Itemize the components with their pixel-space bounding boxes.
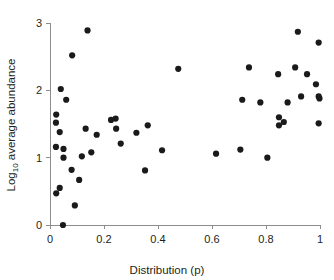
data-point: [145, 122, 151, 128]
y-axis-title-rest: average abundance: [5, 59, 17, 164]
data-point: [142, 167, 148, 173]
x-axis-ticks: [50, 225, 320, 229]
y-tick-label: 1: [36, 152, 42, 164]
data-point: [57, 129, 63, 135]
data-point: [295, 29, 301, 35]
x-tick-label: 0.2: [96, 233, 111, 245]
data-point: [58, 86, 64, 92]
data-point: [213, 151, 219, 157]
data-point: [84, 27, 90, 33]
x-tick-label: 0.4: [150, 233, 165, 245]
data-point: [60, 146, 66, 152]
data-point: [264, 155, 270, 161]
data-point: [53, 111, 59, 117]
data-point: [53, 190, 59, 196]
data-point: [246, 64, 252, 70]
data-point: [175, 66, 181, 72]
data-point: [298, 93, 304, 99]
y-tick-label: 2: [36, 84, 42, 96]
data-point: [239, 97, 245, 103]
data-point: [76, 177, 82, 183]
data-point: [275, 71, 281, 77]
data-point: [88, 149, 94, 155]
data-point: [79, 153, 85, 159]
data-point: [281, 119, 287, 125]
data-point: [313, 81, 319, 87]
data-point: [60, 155, 66, 161]
x-tick-label: 0.6: [204, 233, 219, 245]
scatter-plot-figure: 0123 00.20.40.60.81 Distribution (p) Log…: [0, 0, 334, 280]
x-tick-label: 0.8: [258, 233, 273, 245]
data-point: [72, 202, 78, 208]
data-point: [69, 167, 75, 173]
x-axis-tick-labels: 00.20.40.60.81: [47, 233, 323, 245]
data-point: [133, 130, 139, 136]
data-point: [57, 185, 63, 191]
y-axis-ticks: [46, 23, 50, 225]
chart-canvas: 0123 00.20.40.60.81 Distribution (p) Log…: [0, 0, 334, 280]
data-point: [69, 52, 75, 58]
y-tick-label: 0: [36, 219, 42, 231]
data-point: [63, 97, 69, 103]
data-point: [83, 126, 89, 132]
data-points: [53, 27, 323, 228]
data-point: [292, 64, 298, 70]
y-tick-label: 3: [36, 17, 42, 29]
data-point: [113, 116, 119, 122]
data-point: [257, 99, 263, 105]
data-point: [53, 144, 59, 150]
data-point: [159, 147, 165, 153]
data-point: [237, 146, 243, 152]
data-point: [316, 95, 322, 101]
data-point: [94, 132, 100, 138]
data-point: [276, 114, 282, 120]
data-point: [118, 140, 124, 146]
x-tick-label: 0: [47, 233, 53, 245]
y-axis-tick-labels: 0123: [36, 17, 42, 231]
y-axis-title-base: Log: [5, 172, 17, 191]
data-point: [113, 126, 119, 132]
data-point: [60, 222, 66, 228]
x-tick-label: 1: [317, 233, 323, 245]
data-point: [285, 99, 291, 105]
y-axis-title: Log10 average abundance: [5, 59, 20, 192]
data-point: [53, 120, 59, 126]
x-axis-title: Distribution (p): [130, 264, 205, 276]
data-point: [304, 71, 310, 77]
data-point: [316, 39, 322, 45]
y-axis-title-text: Log10 average abundance: [5, 59, 20, 192]
data-point: [316, 120, 322, 126]
